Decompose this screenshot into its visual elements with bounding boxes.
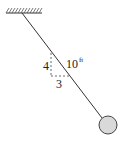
horizontal-leg-label: 3 bbox=[56, 78, 62, 90]
pendulum-bob bbox=[99, 116, 117, 134]
rope-length-unit: ft bbox=[79, 56, 83, 64]
rope-length-value: 10 bbox=[66, 57, 78, 71]
vertical-leg-label: 4 bbox=[43, 60, 49, 72]
rope-length-label: 10ft bbox=[66, 58, 83, 70]
diagram-canvas bbox=[0, 0, 123, 144]
rope bbox=[22, 13, 102, 118]
ceiling-support bbox=[6, 8, 42, 13]
pendulum-diagram: 4 3 10ft bbox=[0, 0, 123, 144]
